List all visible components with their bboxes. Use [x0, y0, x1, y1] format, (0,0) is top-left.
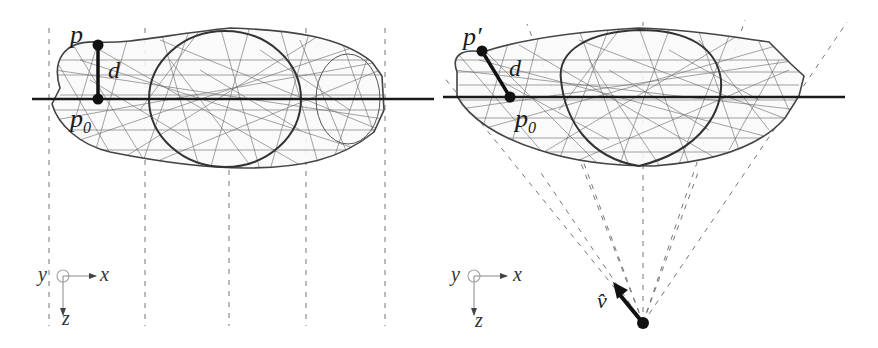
label-p: p	[70, 22, 83, 48]
axis-label-z: z	[475, 310, 483, 330]
orthographic-panel: p d p0 y x z	[0, 0, 439, 348]
point-p	[93, 40, 104, 51]
orthographic-figure	[0, 0, 439, 348]
point-p0	[505, 92, 516, 103]
axis-label-y: y	[451, 264, 460, 284]
label-p0: p0	[515, 106, 536, 136]
label-d: d	[108, 58, 120, 82]
axis-triad	[468, 270, 507, 315]
axis-label-z: z	[62, 308, 70, 328]
label-p-prime: p′	[463, 24, 482, 50]
view-vector	[613, 282, 649, 329]
axis-label-x: x	[513, 264, 522, 284]
label-d: d	[509, 56, 521, 80]
perspective-figure	[439, 0, 878, 348]
wireframe-mesh	[444, 20, 814, 180]
label-p0: p0	[70, 106, 91, 136]
viewpoint	[637, 317, 649, 329]
perspective-panel: p′ d p0 v̂ y x z	[439, 0, 878, 348]
axis-label-y: y	[38, 264, 47, 284]
axis-label-x: x	[100, 264, 109, 284]
point-p0	[93, 94, 104, 105]
label-view-vector: v̂	[597, 290, 607, 312]
